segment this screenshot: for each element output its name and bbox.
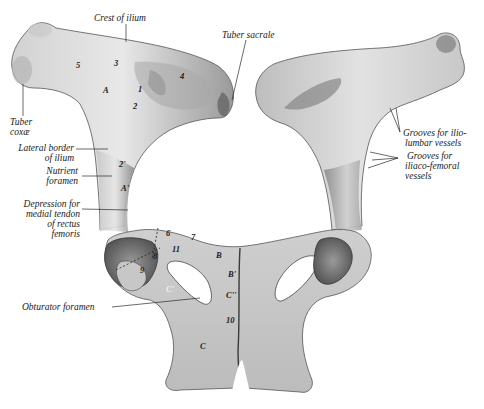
- marker-B-prime: B': [228, 270, 236, 279]
- marker-C: C: [200, 342, 206, 351]
- marker-7: 7: [191, 233, 195, 242]
- label-grooves-iliacofemoral-line1: Grooves for: [407, 151, 452, 161]
- label-lateral-border-line1: Lateral border: [18, 143, 74, 153]
- marker-2-prime: 2': [119, 160, 126, 169]
- label-depression-line1: Depression for: [24, 199, 80, 209]
- marker-9: 9: [140, 266, 144, 275]
- label-depression-line4: femoris: [52, 229, 81, 239]
- marker-A-prime: A': [121, 184, 129, 193]
- label-nutrient-foramen-line2: foramen: [46, 176, 78, 186]
- marker-2: 2: [133, 102, 137, 111]
- label-nutrient-foramen-line1: Nutrient: [46, 166, 78, 176]
- label-tuber-coxae-line2: coxæ: [10, 127, 30, 137]
- marker-C-prime: C': [166, 285, 174, 294]
- pelvis-diagram: Crest of ilium Tuber sacrale Tuber coxæ …: [0, 0, 484, 409]
- label-crest-of-ilium: Crest of ilium: [94, 13, 146, 23]
- label-tuber-sacrale: Tuber sacrale: [222, 30, 275, 40]
- label-grooves-iliacofemoral-line3: vessels: [405, 171, 431, 181]
- label-depression-line3: of rectus: [47, 219, 80, 229]
- marker-10: 10: [226, 316, 235, 325]
- label-tuber-coxae-line1: Tuber: [10, 117, 32, 127]
- pubis-ischium: [105, 228, 372, 392]
- marker-B: B: [216, 251, 222, 260]
- label-obturator-foramen: Obturator foramen: [22, 302, 95, 312]
- marker-C-double-prime: C'': [226, 291, 236, 300]
- marker-11: 11: [172, 245, 180, 254]
- label-depression-line2: medial tendon: [26, 209, 80, 219]
- marker-8: 8: [153, 252, 157, 261]
- label-grooves-iliolumbar-line1: Grooves for ilio-: [403, 128, 467, 138]
- label-grooves-iliolumbar-line2: lumbar vessels: [405, 138, 461, 148]
- marker-1: 1: [138, 85, 142, 94]
- marker-3: 3: [114, 59, 118, 68]
- marker-4: 4: [180, 72, 184, 81]
- label-grooves-iliacofemoral-line2: iliaco-femoral: [405, 161, 459, 171]
- label-lateral-border-line2: of ilium: [45, 153, 74, 163]
- marker-6: 6: [166, 229, 170, 238]
- marker-A: A: [103, 86, 109, 95]
- marker-5: 5: [76, 61, 80, 70]
